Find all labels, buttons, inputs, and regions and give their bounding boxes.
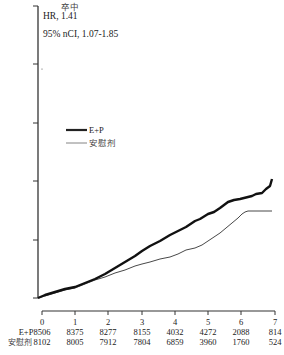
risk-cell: 8102 (34, 337, 51, 347)
risk-cell: 4032 (167, 327, 184, 337)
hr-annotation: HR, 1.41 (43, 11, 78, 21)
x-tick: 7 (273, 317, 277, 327)
risk-cell: 7804 (134, 337, 152, 347)
risk-cell: 8155 (134, 327, 151, 337)
risk-cell: 524 (269, 337, 283, 347)
ep-curve (38, 179, 272, 298)
risk-label-placebo: 安慰剂 (8, 337, 32, 347)
at-risk-table: E+P 安慰剂 8506 8375 8277 8155 4032 4272 20… (8, 327, 282, 347)
risk-label-ep: E+P (19, 327, 34, 337)
risk-cell: 814 (269, 327, 283, 337)
x-axis (42, 311, 275, 315)
km-chart: 卒中 HR, 1.41 95% nCI, 1.07-1.85 E+P 安慰剂 0… (0, 0, 284, 355)
risk-cell: 7912 (100, 337, 117, 347)
risk-row-ep: 8506 8375 8277 8155 4032 4272 2088 814 (34, 327, 283, 337)
x-tick: 1 (73, 317, 77, 327)
x-tick: 0 (40, 317, 44, 327)
x-tick: 6 (239, 317, 243, 327)
risk-cell: 8277 (100, 327, 117, 337)
risk-cell: 8506 (34, 327, 51, 337)
x-tick: 3 (140, 317, 144, 327)
legend: E+P 安慰剂 (66, 125, 116, 148)
x-tick: 2 (106, 317, 110, 327)
risk-cell: 3960 (200, 337, 217, 347)
legend-label-placebo: 安慰剂 (89, 138, 116, 148)
x-tick: 4 (173, 317, 178, 327)
risk-cell: 8375 (67, 327, 84, 337)
risk-cell: 6859 (167, 337, 184, 347)
risk-cell: 8005 (67, 337, 84, 347)
y-axis (33, 6, 38, 298)
stray-mark (41, 68, 42, 69)
x-tick-labels: 0 1 2 3 4 5 6 7 (40, 317, 277, 327)
risk-cell: 2088 (233, 327, 250, 337)
ci-annotation: 95% nCI, 1.07-1.85 (43, 29, 118, 39)
legend-label-ep: E+P (89, 125, 104, 135)
risk-cell: 4272 (200, 327, 217, 337)
risk-cell: 1760 (233, 337, 250, 347)
risk-row-placebo: 8102 8005 7912 7804 6859 3960 1760 524 (34, 337, 283, 347)
x-tick: 5 (206, 317, 210, 327)
placebo-curve (38, 211, 272, 298)
